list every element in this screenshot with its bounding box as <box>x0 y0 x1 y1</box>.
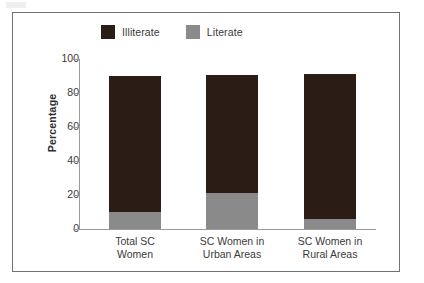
y-tick-label: 60 <box>27 120 79 132</box>
figure-frame: Illiterate Literate Percentage 020406080… <box>12 12 400 272</box>
x-axis-label-1: Total SCWomen <box>83 235 187 261</box>
y-tick-100: 100 <box>13 59 79 60</box>
y-tick-mark <box>73 127 80 128</box>
y-tick-mark <box>73 195 80 196</box>
y-tick-80: 80 <box>13 93 79 94</box>
bar-segment-illiterate[interactable] <box>109 76 161 212</box>
bar-segment-literate[interactable] <box>109 212 161 229</box>
bar-segment-literate[interactable] <box>304 219 356 229</box>
y-tick-label: 20 <box>27 188 79 200</box>
bar-2[interactable] <box>206 75 258 229</box>
bar-3[interactable] <box>304 74 356 229</box>
scan-artifact <box>6 2 26 8</box>
bar-1[interactable] <box>109 76 161 229</box>
x-axis-label-2: SC Women inUrban Areas <box>180 235 284 261</box>
bar-segment-illiterate[interactable] <box>304 74 356 219</box>
y-axis-line <box>79 59 80 230</box>
x-axis-label-line: Total SC <box>83 235 187 248</box>
x-axis-label-line: SC Women in <box>278 235 382 248</box>
bar-segment-illiterate[interactable] <box>206 75 258 193</box>
y-tick-mark <box>73 93 80 94</box>
y-tick-label: 100 <box>27 52 79 64</box>
y-tick-mark <box>73 161 80 162</box>
y-tick-20: 20 <box>13 195 79 196</box>
y-tick-60: 60 <box>13 127 79 128</box>
x-axis-line <box>79 229 376 230</box>
x-axis-label-line: Rural Areas <box>278 248 382 261</box>
x-axis-label-line: SC Women in <box>180 235 284 248</box>
x-axis-label-line: Urban Areas <box>180 248 284 261</box>
x-axis-label-line: Women <box>83 248 187 261</box>
bar-segment-literate[interactable] <box>206 193 258 229</box>
y-tick-mark <box>73 59 80 60</box>
y-tick-label: 40 <box>27 154 79 166</box>
x-axis-label-3: SC Women inRural Areas <box>278 235 382 261</box>
y-tick-0: 0 <box>13 229 79 230</box>
y-tick-mark <box>73 229 80 230</box>
plot-area: Percentage 020406080100 Total SCWomenSC … <box>13 13 401 273</box>
y-tick-label: 0 <box>27 222 79 234</box>
y-tick-40: 40 <box>13 161 79 162</box>
y-tick-label: 80 <box>27 86 79 98</box>
